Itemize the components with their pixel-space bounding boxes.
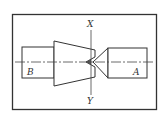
label-a: A xyxy=(132,67,140,77)
label-b: B xyxy=(26,67,34,77)
shaft-a xyxy=(108,48,147,78)
diagram-canvas: X Y B A xyxy=(0,0,167,125)
label-x: X xyxy=(86,19,94,29)
label-y: Y xyxy=(87,96,94,106)
